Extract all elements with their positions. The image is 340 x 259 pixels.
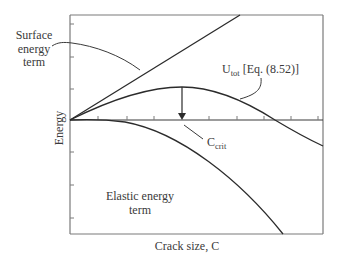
ccrit-label: Ccrit: [207, 135, 227, 151]
x-axis-label: Crack size, C: [155, 239, 219, 253]
svg-text:term: term: [23, 55, 46, 69]
arrowhead-icon: [178, 113, 186, 120]
elastic-energy-curve: [70, 120, 283, 234]
surface-leader-line: [52, 42, 140, 70]
svg-text:Elastic energy: Elastic energy: [106, 189, 174, 203]
svg-text:energy: energy: [18, 42, 50, 56]
elastic-energy-label: Elastic energy term: [106, 189, 174, 217]
surface-energy-label: Surface energy term: [16, 28, 53, 69]
ccrit-leader-line: [184, 125, 203, 139]
svg-text:term: term: [129, 203, 152, 217]
utot-leader-line: [240, 78, 261, 99]
surface-energy-curve: [70, 15, 240, 120]
energy-vs-crack-size-diagram: Surface energy term Utot [Eq. (8.52)] Cc…: [0, 0, 340, 259]
c-crit-arrow: [178, 87, 186, 120]
svg-text:Surface: Surface: [16, 28, 53, 42]
y-axis-label: Energy: [52, 111, 66, 145]
utot-label: Utot [Eq. (8.52)]: [222, 62, 299, 78]
